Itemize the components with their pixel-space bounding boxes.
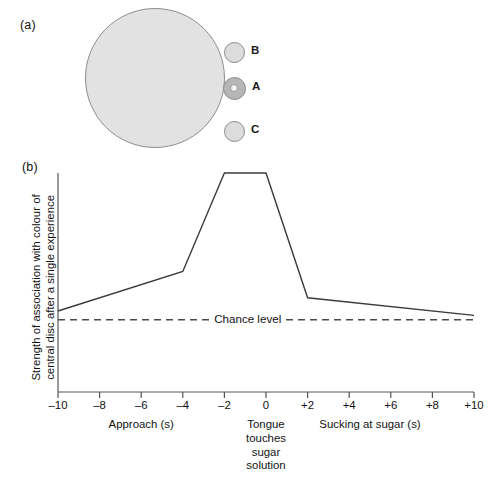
panel-a-label: (a) [20, 18, 36, 32]
association-strength-curve [58, 173, 474, 315]
x-tick-label: –2 [207, 399, 241, 411]
x-tick-label: –4 [166, 399, 200, 411]
figure-root: (a) B A C (b) Strength of association wi… [0, 0, 492, 486]
disc-label-a: A [252, 80, 260, 92]
disc-label-b: B [251, 44, 259, 56]
x-tick-label: +8 [415, 399, 449, 411]
panel-b: (b) Strength of association with colour … [0, 155, 492, 486]
sucking-at-sugar-caption: Sucking at sugar (s) [295, 418, 445, 432]
large-background-disc: B A C [85, 8, 225, 148]
approach-caption: Approach (s) [86, 418, 196, 432]
disc-a-inner-hole [230, 84, 238, 92]
disc-a-ring [223, 77, 246, 100]
x-tick-label: +6 [374, 399, 408, 411]
disc-label-c: C [251, 123, 259, 135]
x-tick-label: +10 [457, 399, 491, 411]
x-axis-ticks [58, 392, 474, 398]
disc-b [224, 42, 245, 63]
x-tick-label: –10 [41, 399, 75, 411]
disc-c [224, 121, 245, 142]
chance-level-label: Chance level [209, 312, 286, 325]
x-tick-label: +2 [291, 399, 325, 411]
x-tick-label: –6 [124, 399, 158, 411]
tongue-touches-caption: Tongue touches sugar solution [227, 418, 305, 473]
x-tick-label: –8 [83, 399, 117, 411]
panel-a: (a) B A C [0, 0, 492, 155]
x-tick-label: +4 [332, 399, 366, 411]
x-tick-label: 0 [249, 399, 283, 411]
